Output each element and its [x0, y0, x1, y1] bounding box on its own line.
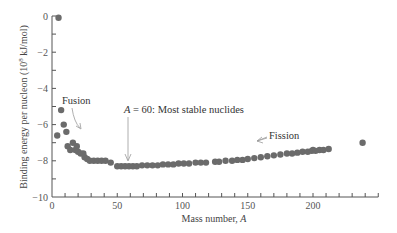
data-point — [186, 160, 192, 166]
x-tick-label: 200 — [306, 200, 321, 211]
data-point — [222, 158, 228, 164]
data-point — [277, 151, 283, 157]
data-point — [61, 121, 67, 127]
fusion-label: Fusion — [62, 95, 91, 106]
y-axis-title-suffix: kJ/mol) — [18, 25, 30, 58]
data-point — [108, 159, 114, 165]
annotations: Fusion A = 60: Most stable nuclides Fiss… — [62, 95, 300, 161]
fission-label: Fission — [269, 130, 300, 141]
data-point — [54, 132, 60, 138]
x-axis-title: Mass number, A — [182, 213, 248, 224]
x-tick-label: 150 — [240, 200, 255, 211]
y-tick-label: −2 — [37, 47, 48, 58]
y-tick-label: −10 — [32, 192, 48, 203]
y-axis-title-text: Binding energy per nucleon (10 — [18, 62, 30, 189]
data-point — [359, 140, 365, 146]
stable-text: = 60: Most stable nuclides — [130, 104, 244, 115]
data-point — [245, 156, 251, 162]
data-point — [251, 155, 257, 161]
data-point — [264, 153, 270, 159]
x-tick-label: 0 — [50, 200, 55, 211]
data-point — [74, 143, 80, 149]
x-tick-label: 50 — [112, 200, 122, 211]
y-axis-title: Binding energy per nucleon (108 kJ/mol) — [17, 25, 30, 189]
data-point — [58, 107, 64, 113]
data-point — [63, 129, 69, 135]
fission-arrow-line — [257, 137, 267, 141]
data-point — [55, 15, 61, 21]
data-point — [325, 146, 331, 152]
data-point — [203, 159, 209, 165]
fusion-arrow — [72, 108, 80, 128]
data-points — [54, 15, 366, 170]
data-point — [216, 159, 222, 165]
x-tick-label: 100 — [175, 200, 190, 211]
x-axis-var: A — [239, 213, 247, 224]
x-axis-title-text: Mass number, — [182, 213, 241, 224]
data-point — [271, 152, 277, 158]
binding-energy-chart: 0501001502000−2−4−6−8−10 Fusion A = 60: … — [0, 0, 397, 233]
most-stable-label: A = 60: Most stable nuclides — [123, 104, 244, 115]
y-tick-label: −6 — [37, 119, 48, 130]
data-point — [258, 154, 264, 160]
y-tick-label: −8 — [37, 155, 48, 166]
y-tick-label: 0 — [43, 11, 48, 22]
y-tick-label: −4 — [37, 83, 48, 94]
